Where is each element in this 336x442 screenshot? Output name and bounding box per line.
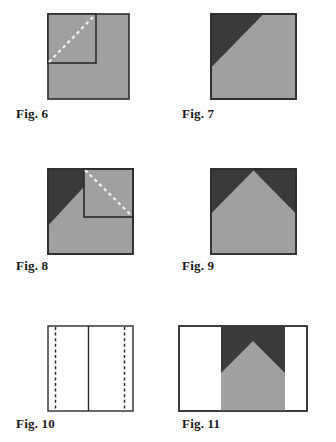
figure-fig11: [178, 325, 308, 412]
figure-fig8: [47, 168, 134, 255]
figure-fig11-graphic: [178, 325, 308, 412]
figure-fig9: [210, 168, 297, 255]
figure-fig7-graphic: [210, 13, 297, 100]
fig10-outer-square: [48, 326, 133, 411]
figure-fig9-graphic: [210, 168, 297, 255]
figure-fig10: [47, 325, 134, 412]
figure-fig10-graphic: [47, 325, 134, 412]
figure-fig6-graphic: [47, 13, 130, 100]
figure-fig10-caption: Fig. 10: [16, 416, 55, 432]
figure-fig8-graphic: [47, 168, 134, 255]
figure-plate-page: Fig. 6 Fig. 7 Fig. 8 Fig. 9: [0, 0, 336, 442]
figure-fig11-caption: Fig. 11: [182, 416, 220, 432]
figure-fig7: [210, 13, 297, 100]
figure-fig6-caption: Fig. 6: [16, 106, 48, 122]
figure-fig6: [47, 13, 130, 100]
figure-fig8-caption: Fig. 8: [16, 258, 48, 274]
figure-fig9-caption: Fig. 9: [182, 258, 214, 274]
figure-fig7-caption: Fig. 7: [182, 106, 214, 122]
